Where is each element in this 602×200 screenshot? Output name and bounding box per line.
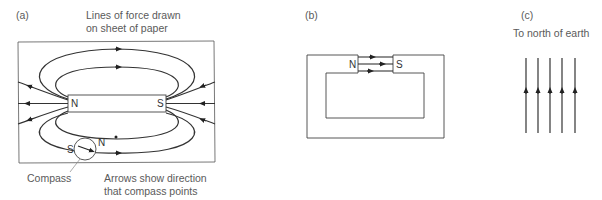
arrows-note-line1: Arrows show direction [104,172,207,185]
panel-a-caption-line2: on sheet of paper [86,22,168,35]
panel-c-label: (c) [521,9,533,22]
field-line [166,82,215,100]
horseshoe-north-label: N [349,58,356,71]
bar-magnet [68,95,166,112]
horseshoe-yoke-outer [307,55,444,138]
panel-b-label: (b) [305,9,318,22]
magnet-north-label: N [71,97,78,110]
panel-c-diagram [526,58,575,133]
compass-south-label: S [67,143,74,156]
compass-pointer-line [70,159,80,172]
field-line [56,67,179,97]
panel-a-caption-line1: Lines of force drawn [86,9,181,22]
panel-a-diagram [18,41,215,172]
panel-c-caption: To north of earth [513,27,589,40]
field-line [39,113,194,153]
field-line [56,110,179,139]
field-line [39,49,194,99]
horseshoe-south-label: S [396,58,403,71]
panel-b-diagram [307,55,444,138]
compass-north-label: N [98,136,105,149]
magnet-south-label: S [157,97,164,110]
panel-a-label: (a) [16,9,29,22]
horseshoe-yoke-inner [326,73,424,118]
compass-label: Compass [27,172,71,185]
arrows-note-line2: that compass points [104,185,197,198]
